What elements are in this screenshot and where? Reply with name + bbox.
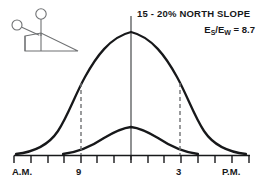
slope-wedge-icon	[25, 33, 78, 51]
chart-title: 15 - 20% NORTH SLOPE	[137, 8, 261, 20]
ratio-subscript-s: S	[211, 29, 216, 36]
axis-label-3: 3	[176, 166, 181, 177]
axis-label-9: 9	[76, 166, 81, 177]
sun-circle-high-icon	[36, 9, 46, 19]
title-block: 15 - 20% NORTH SLOPE ES/EW = 8.7	[137, 8, 261, 36]
chart-ratio-formula: ES/EW = 8.7	[137, 24, 261, 36]
axis-label-pm: P.M.	[222, 166, 240, 177]
ratio-e-s: E	[204, 24, 210, 35]
axis-label-am: A.M.	[12, 166, 32, 177]
ratio-subscript-w: W	[224, 29, 231, 36]
sun-circle-low-icon	[12, 20, 22, 30]
ratio-slash-e: /E	[215, 24, 224, 35]
x-axis-ticks	[14, 156, 249, 164]
sun-slope-schematic-icon	[12, 9, 78, 51]
insolation-figure: 15 - 20% NORTH SLOPE ES/EW = 8.7 A.M. 9 …	[0, 0, 263, 187]
ratio-equals-value: = 8.7	[231, 24, 255, 35]
